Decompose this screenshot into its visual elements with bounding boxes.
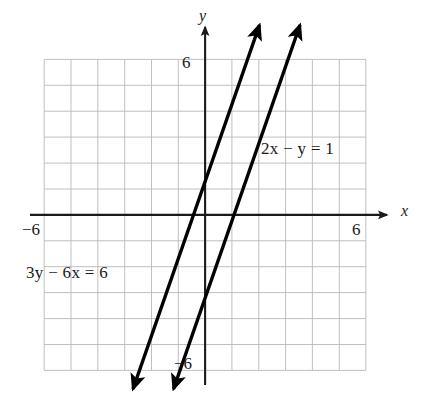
plot-line-3y-6x-6	[133, 25, 260, 389]
y-axis-tick-label-negative: −6	[174, 355, 192, 372]
y-axis-name: y	[199, 8, 206, 24]
plot-line-2x-y-1	[174, 25, 301, 389]
x-axis-name: x	[401, 203, 408, 219]
x-axis-tick-label-negative: −6	[22, 221, 40, 238]
equation-label-2x-minus-y-equals-1: 2x − y = 1	[261, 140, 334, 157]
coordinate-plane-figure: 6 −6 6 −6 y x 2x − y = 1 3y − 6x = 6	[0, 0, 425, 411]
x-axis-tick-label-positive: 6	[352, 221, 361, 238]
equation-label-3y-minus-6x-equals-6: 3y − 6x = 6	[26, 264, 108, 281]
graph-canvas	[0, 0, 425, 411]
y-axis-tick-label-positive: 6	[182, 54, 191, 71]
